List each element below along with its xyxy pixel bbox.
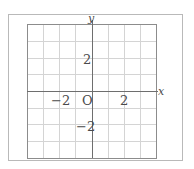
x-axis-label: x — [158, 85, 165, 98]
y-axis-label: y — [87, 12, 95, 25]
x-tick-label-2: 2 — [120, 93, 128, 108]
origin-label: O — [82, 93, 93, 108]
y-tick-label-neg2: −2 — [76, 119, 95, 134]
coordinate-plane: y x O −2 2 2 −2 — [0, 0, 194, 169]
x-tick-label-neg2: −2 — [51, 93, 70, 108]
y-tick-label-2: 2 — [83, 52, 91, 67]
